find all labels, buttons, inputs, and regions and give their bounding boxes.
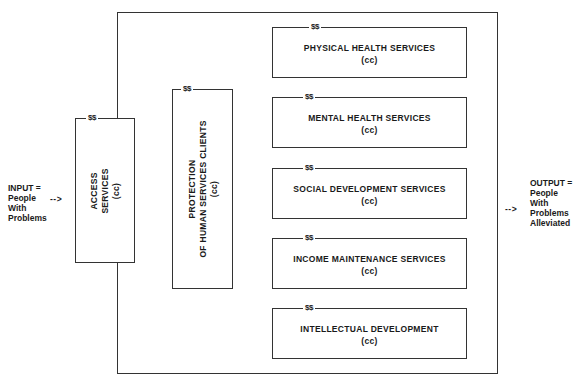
- service-cc: (cc): [273, 335, 466, 347]
- service-name: MENTAL HEALTH SERVICES: [308, 113, 431, 123]
- input-line-1: INPUT =: [8, 183, 47, 193]
- service-cc: (cc): [273, 124, 466, 136]
- funding-label: $$: [303, 92, 315, 102]
- service-cc: (cc): [273, 265, 466, 277]
- input-line-4: Problems: [8, 213, 47, 223]
- input-label: INPUT = People With Problems: [8, 183, 47, 223]
- access-line-2: SERVICES: [100, 168, 111, 213]
- output-label: OUTPUT = People With Problems Alleviated: [530, 178, 572, 228]
- protection-label: PROTECTION OF HUMAN SERVICES CLIENTS (cc…: [186, 120, 219, 257]
- mental-health-services-box: $$ MENTAL HEALTH SERVICES (cc): [272, 97, 467, 148]
- input-line-2: People: [8, 193, 47, 203]
- output-line-2: People: [530, 188, 572, 198]
- service-label: INTELLECTUAL DEVELOPMENT (cc): [273, 323, 466, 347]
- access-services-box: $$ ACCESS SERVICES (cc): [75, 118, 135, 263]
- protection-line-2: OF HUMAN SERVICES CLIENTS: [197, 120, 208, 257]
- access-cc: (cc): [111, 168, 122, 213]
- input-line-3: With: [8, 203, 47, 213]
- funding-label: $$: [303, 303, 315, 313]
- funding-label: $$: [303, 163, 315, 173]
- service-name: INTELLECTUAL DEVELOPMENT: [300, 324, 438, 334]
- service-name: PHYSICAL HEALTH SERVICES: [304, 43, 435, 53]
- protection-line-1: PROTECTION: [186, 120, 197, 257]
- intellectual-development-box: $$ INTELLECTUAL DEVELOPMENT (cc): [272, 308, 467, 359]
- social-development-services-box: $$ SOCIAL DEVELOPMENT SERVICES (cc): [272, 168, 467, 219]
- output-line-3: With: [530, 198, 572, 208]
- protection-box: $$ PROTECTION OF HUMAN SERVICES CLIENTS …: [172, 89, 233, 289]
- output-line-4: Problems: [530, 208, 572, 218]
- protection-cc: (cc): [208, 120, 219, 257]
- output-line-5: Alleviated: [530, 218, 572, 228]
- physical-health-services-box: $$ PHYSICAL HEALTH SERVICES (cc): [272, 27, 467, 78]
- access-services-label: ACCESS SERVICES (cc): [89, 168, 122, 213]
- service-label: INCOME MAINTENANCE SERVICES (cc): [273, 253, 466, 277]
- funding-label: $$: [181, 84, 193, 94]
- access-line-1: ACCESS: [89, 168, 100, 213]
- output-arrow-icon: -->: [505, 204, 517, 214]
- service-name: SOCIAL DEVELOPMENT SERVICES: [293, 184, 445, 194]
- service-cc: (cc): [273, 54, 466, 66]
- input-arrow-icon: -->: [50, 194, 62, 204]
- income-maintenance-services-box: $$ INCOME MAINTENANCE SERVICES (cc): [272, 238, 467, 289]
- funding-label: $$: [309, 22, 321, 32]
- service-label: SOCIAL DEVELOPMENT SERVICES (cc): [273, 183, 466, 207]
- output-line-1: OUTPUT =: [530, 178, 572, 188]
- service-cc: (cc): [273, 195, 466, 207]
- service-name: INCOME MAINTENANCE SERVICES: [293, 254, 445, 264]
- service-label: PHYSICAL HEALTH SERVICES (cc): [273, 42, 466, 66]
- service-label: MENTAL HEALTH SERVICES (cc): [273, 112, 466, 136]
- funding-label: $$: [86, 113, 98, 123]
- funding-label: $$: [303, 233, 315, 243]
